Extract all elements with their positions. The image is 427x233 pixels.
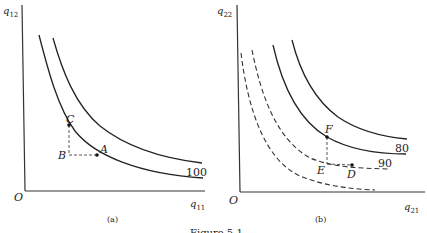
y-axis-label-a: q12 [3, 5, 18, 19]
isoquant-label-90: 90 [378, 157, 392, 170]
x-axis-label-a: q11 [190, 198, 205, 212]
label-f: F [324, 123, 333, 136]
label-d: D [346, 168, 356, 181]
label-a: A [99, 143, 108, 156]
origin-b: O [229, 194, 238, 207]
panel-label-b: (b) [315, 215, 326, 224]
point-a [95, 153, 99, 157]
label-b: B [57, 149, 66, 162]
y-axis-label-b: q22 [217, 5, 232, 19]
label-e: E [316, 164, 325, 177]
x-axis-label-b: q21 [404, 201, 419, 215]
y-axis-b [237, 5, 240, 192]
panel-label-a: (a) [107, 215, 118, 224]
origin-a: O [14, 191, 23, 204]
y-axis-a [22, 5, 25, 191]
isoquant-outer-a [53, 38, 202, 163]
isoquant-label-100: 100 [186, 166, 207, 179]
figure-caption: Figure 5.1 [190, 227, 243, 233]
isoquant-label-80: 80 [395, 142, 409, 155]
label-c: C [66, 113, 75, 126]
point-d [350, 163, 354, 167]
panel-a: C A B 100 q12 O q11 (a) [3, 5, 207, 224]
isoquant-figure: C A B 100 q12 O q11 (a) F E D 80 90 q22 … [0, 0, 427, 233]
isoquant-80 [273, 45, 406, 154]
isoquant-outer-b [292, 40, 407, 139]
panel-b: F E D 80 90 q22 O q21 (b) [217, 5, 425, 224]
